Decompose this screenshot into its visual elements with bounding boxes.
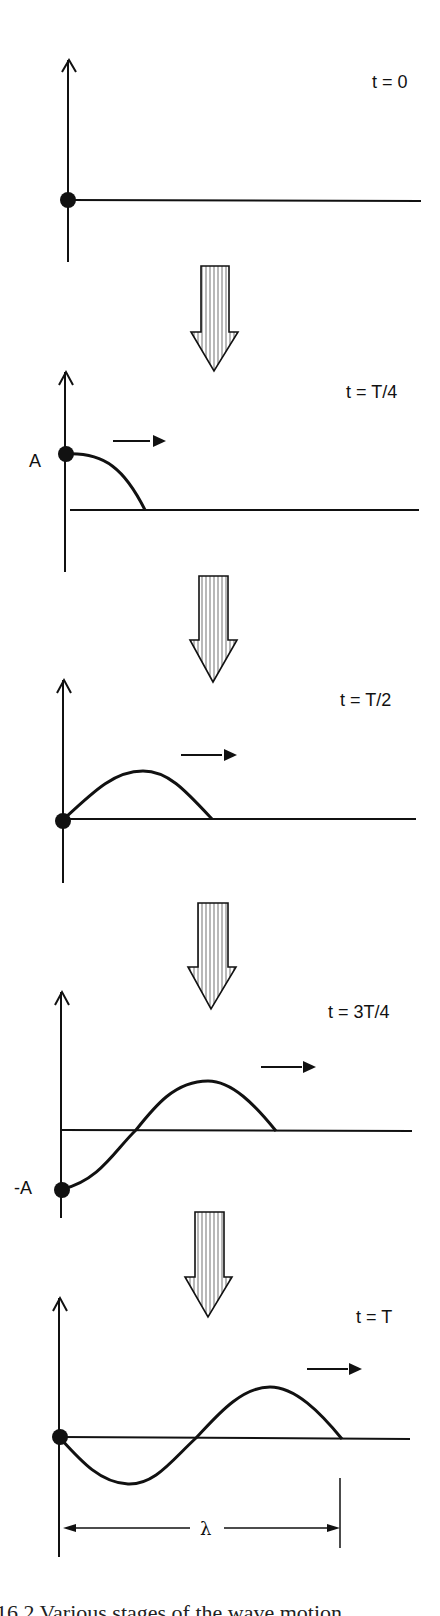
propagation-arrowhead-icon [224, 749, 237, 761]
amplitude-label-negative: -A [14, 1178, 32, 1199]
wave-curve [66, 454, 145, 510]
source-dot [52, 1429, 68, 1445]
source-dot [54, 1182, 70, 1198]
down-arrow-icon [190, 576, 237, 682]
propagation-arrowhead-icon [349, 1363, 362, 1375]
wave-propagation-diagram [0, 0, 440, 1616]
down-arrow-icon [185, 1212, 232, 1317]
panel-t-full [52, 1298, 410, 1557]
time-label-t-full: t = T [356, 1307, 392, 1328]
source-dot [60, 192, 76, 208]
wave-curve [65, 771, 212, 819]
time-label-t0: t = 0 [372, 72, 408, 93]
wave-curve [60, 1387, 342, 1484]
amplitude-label-positive: A [29, 451, 41, 472]
time-label-t-three-quarter: t = 3T/4 [328, 1002, 390, 1023]
time-label-t-half: t = T/2 [340, 690, 391, 711]
wavelength-label: λ [200, 1518, 211, 1539]
source-dot [55, 813, 71, 829]
wavelength-right-arrowhead-icon [327, 1524, 340, 1532]
panel-t-three-quarter [54, 992, 412, 1218]
propagation-arrowhead-icon [303, 1061, 316, 1073]
source-dot [58, 446, 74, 462]
wavelength-left-arrowhead-icon [63, 1524, 76, 1532]
x-axis [68, 200, 421, 201]
wave-curve [63, 1081, 276, 1189]
down-arrow-icon [188, 903, 236, 1009]
propagation-arrowhead-icon [153, 435, 166, 447]
figure-caption: 16.2 Various stages of the wave motion [0, 1596, 342, 1616]
down-arrow-icon [191, 266, 238, 371]
time-label-t-quarter: t = T/4 [346, 382, 397, 403]
panel-t0 [60, 60, 421, 262]
